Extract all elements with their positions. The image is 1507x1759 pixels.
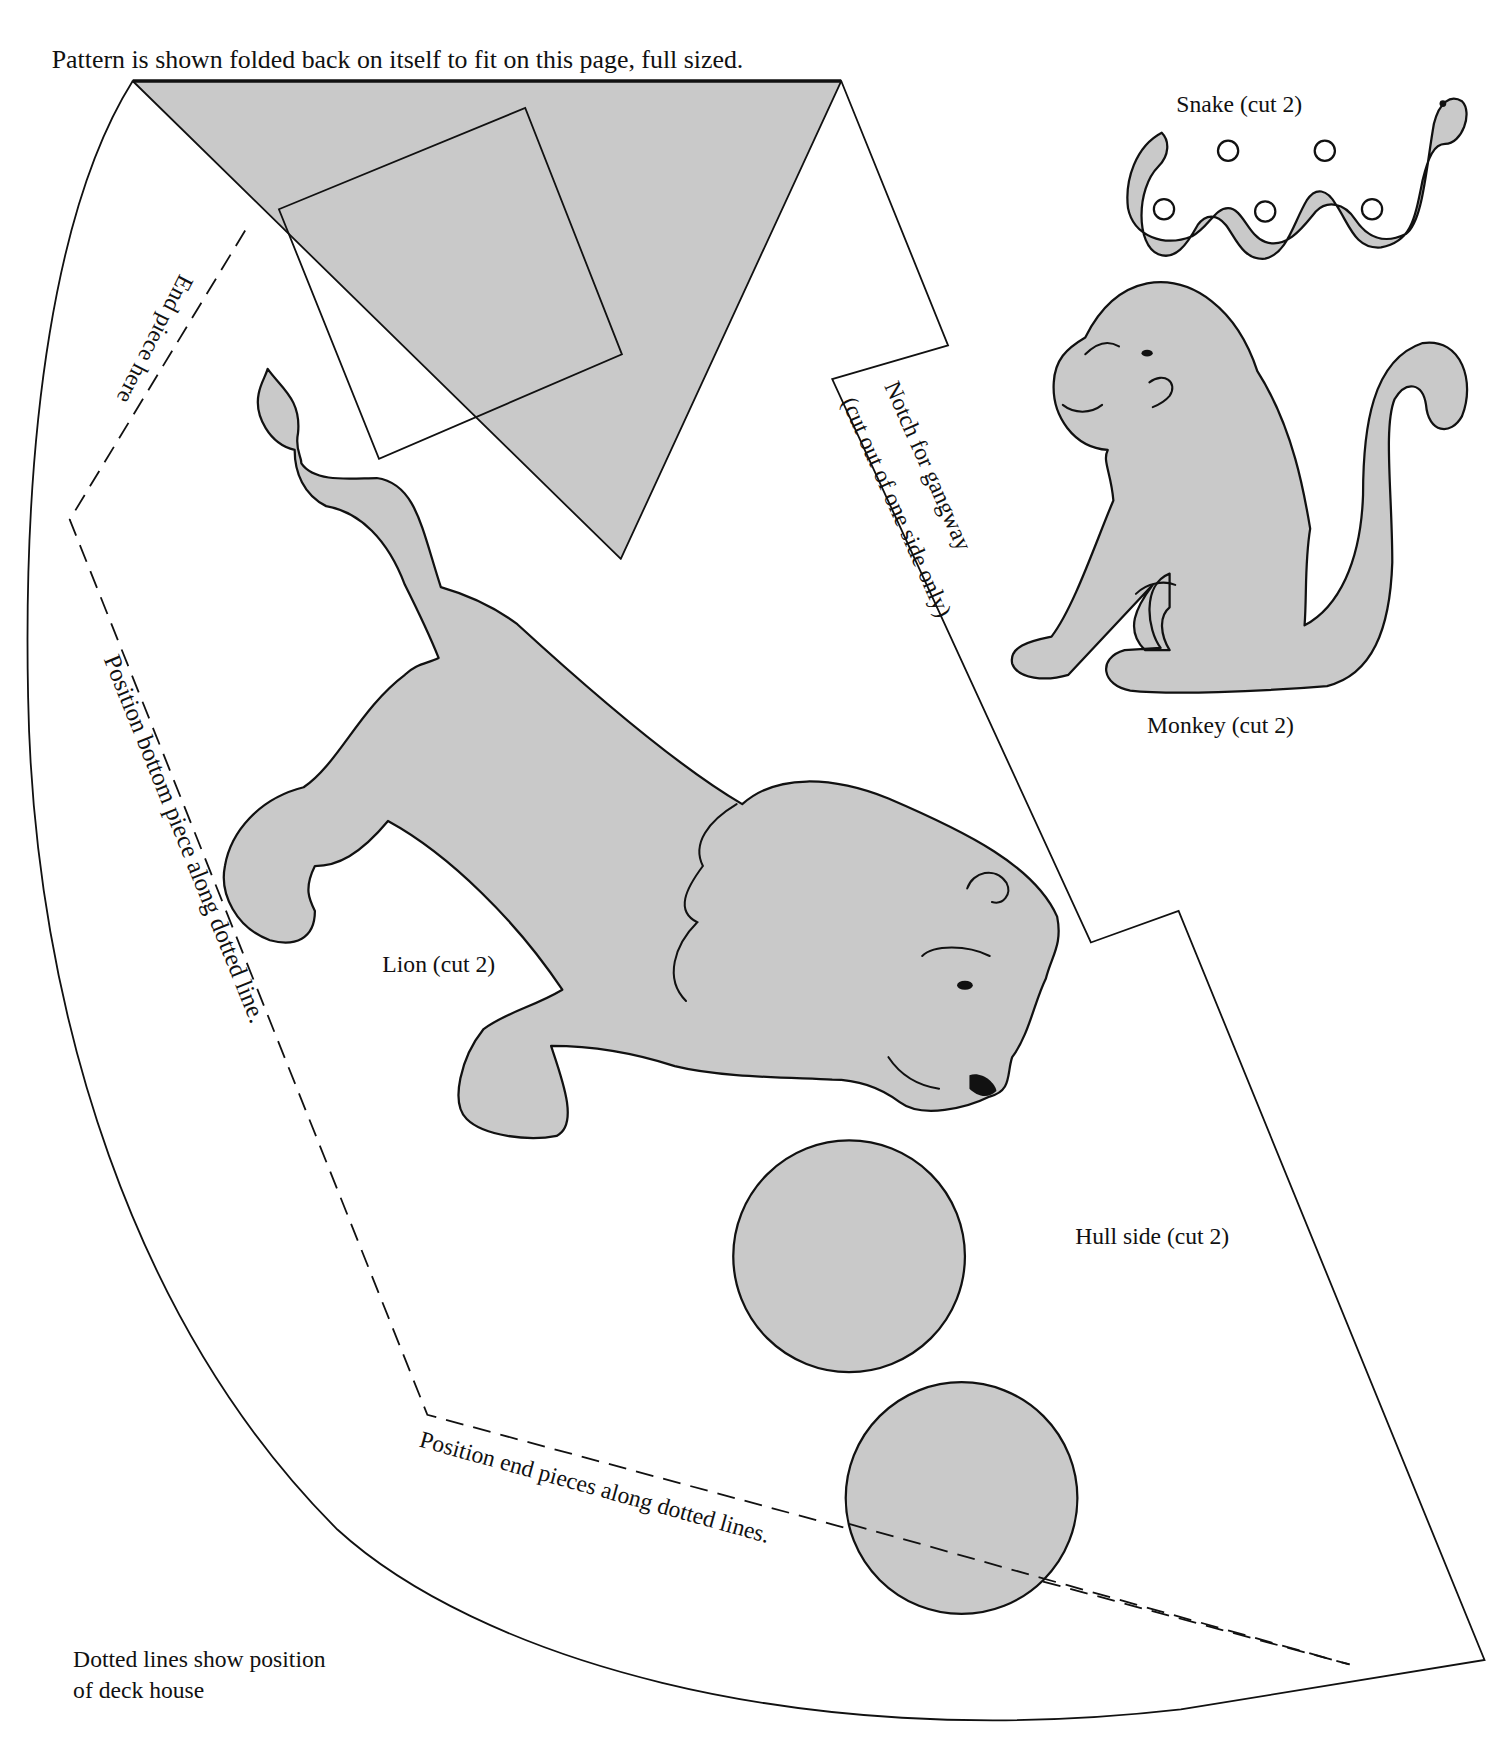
monkey-label: Monkey (cut 2) <box>1147 712 1294 738</box>
footer-note-line1: Dotted lines show position <box>73 1646 326 1672</box>
header-note: Pattern is shown folded back on itself t… <box>52 45 744 74</box>
end-piece-label: End piece here <box>112 271 199 408</box>
pattern-page: Pattern is shown folded back on itself t… <box>0 0 1507 1759</box>
end-pieces-label: Position end pieces along dotted lines. <box>417 1426 773 1548</box>
monkey-piece <box>1012 282 1467 692</box>
snake-piece <box>1127 99 1466 259</box>
snake-label: Snake (cut 2) <box>1176 92 1302 118</box>
hull-side-label: Hull side (cut 2) <box>1075 1223 1229 1249</box>
folded-triangle <box>133 81 842 559</box>
footer-note-line2: of deck house <box>73 1677 204 1703</box>
porthole-upper <box>733 1140 965 1372</box>
lion-label: Lion (cut 2) <box>382 951 495 977</box>
